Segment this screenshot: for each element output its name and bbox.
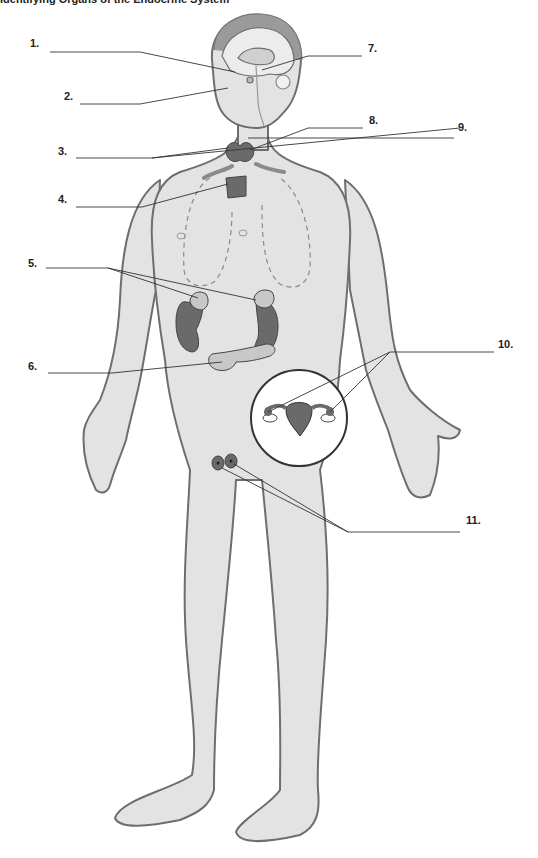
adrenal-gland-right: [254, 290, 274, 308]
label-6: 6.: [28, 360, 37, 372]
label-1: 1.: [30, 37, 39, 49]
label-8: 8.: [369, 114, 378, 126]
label-4: 4.: [58, 193, 67, 205]
label-11: 11.: [466, 514, 481, 526]
label-2: 2.: [64, 90, 73, 102]
ovaries-inset: [251, 370, 347, 466]
label-9: 9.: [458, 121, 467, 133]
thyroid-gland: [226, 143, 254, 162]
label-5: 5.: [28, 257, 37, 269]
label-10: 10.: [498, 338, 513, 350]
label-3: 3.: [58, 145, 67, 157]
label-7: 7.: [368, 42, 377, 54]
